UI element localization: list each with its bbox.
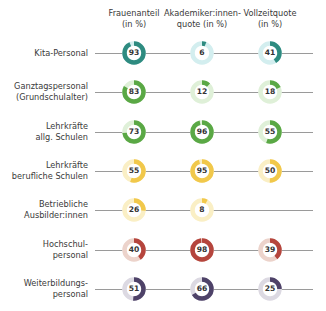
donut-value: 51	[122, 277, 146, 301]
donut-value: 41	[258, 41, 282, 65]
row-label-line: Betriebliche	[0, 199, 88, 210]
donut-ring: 51	[122, 277, 146, 301]
donut-value: 83	[122, 80, 146, 104]
donut-ring: 95	[190, 159, 214, 183]
chart-row: Hochschul-personal409839	[0, 235, 326, 265]
chart-row: BetrieblicheAusbilder:innen268	[0, 195, 326, 225]
donut-value: 6	[190, 41, 214, 65]
donut-value: 55	[122, 159, 146, 183]
row-label-line: (Grundschulalter)	[0, 92, 88, 103]
row-label: Lehrkräfteallg. Schulen	[0, 121, 88, 143]
row-label-line: personal	[0, 250, 88, 261]
donut-value: 93	[122, 41, 146, 65]
row-label: Lehrkräfteberufliche Schulen	[0, 160, 88, 182]
row-label: Weiterbildungs-personal	[0, 278, 88, 300]
donut-value: 73	[122, 120, 146, 144]
donut-value: 96	[190, 120, 214, 144]
column-header-akademikerquote: Akademiker:innen- quote (in %)	[164, 8, 240, 30]
header-line: quote (in %)	[164, 19, 240, 30]
donut-value: 12	[190, 80, 214, 104]
row-label: Hochschul-personal	[0, 239, 88, 261]
donut-value: 50	[258, 159, 282, 183]
row-label-line: berufliche Schulen	[0, 171, 88, 182]
donut-value: 40	[122, 238, 146, 262]
donut-ring: 50	[258, 159, 282, 183]
donut-ring: 66	[190, 277, 214, 301]
chart-row: Weiterbildungs-personal516625	[0, 274, 326, 304]
row-label-line: Hochschul-	[0, 239, 88, 250]
row-label-line: Ausbilder:innen	[0, 210, 88, 221]
chart-row: Ganztagspersonal(Grundschulalter)831218	[0, 77, 326, 107]
header-line: Vollzeitquote	[232, 8, 308, 19]
row-label-line: Weiterbildungs-	[0, 278, 88, 289]
donut-value: 8	[190, 198, 214, 222]
row-label-line: Ganztagspersonal	[0, 81, 88, 92]
donut-ring: 73	[122, 120, 146, 144]
row-label: Ganztagspersonal(Grundschulalter)	[0, 81, 88, 103]
column-header-frauenanteil: Frauenanteil (in %)	[96, 8, 172, 30]
donut-ring: 83	[122, 80, 146, 104]
donut-value: 26	[122, 198, 146, 222]
donut-ring: 39	[258, 238, 282, 262]
donut-ring: 93	[122, 41, 146, 65]
donut-ring: 96	[190, 120, 214, 144]
donut-value: 98	[190, 238, 214, 262]
header-line: Akademiker:innen-	[164, 8, 240, 19]
donut-value: 18	[258, 80, 282, 104]
donut-ring: 18	[258, 80, 282, 104]
row-label-line: Lehrkräfte	[0, 160, 88, 171]
column-header-vollzeitquote: Vollzeitquote (in %)	[232, 8, 308, 30]
donut-ring: 26	[122, 198, 146, 222]
donut-value: 25	[258, 277, 282, 301]
donut-value: 39	[258, 238, 282, 262]
header-line: Frauenanteil	[96, 8, 172, 19]
chart-row: Lehrkräfteallg. Schulen739655	[0, 117, 326, 147]
header-line: (in %)	[232, 19, 308, 30]
row-label-line: Kita-Personal	[0, 48, 88, 59]
row-label: Kita-Personal	[0, 48, 88, 59]
chart-row: Lehrkräfteberufliche Schulen559550	[0, 156, 326, 186]
donut-ring: 55	[258, 120, 282, 144]
donut-ring: 40	[122, 238, 146, 262]
chart-row: Kita-Personal93641	[0, 38, 326, 68]
donut-ring: 8	[190, 198, 214, 222]
donut-ring: 12	[190, 80, 214, 104]
donut-ring: 55	[122, 159, 146, 183]
donut-ring: 25	[258, 277, 282, 301]
header-line: (in %)	[96, 19, 172, 30]
donut-ring: 98	[190, 238, 214, 262]
donut-value: 55	[258, 120, 282, 144]
donut-value: 66	[190, 277, 214, 301]
donut-ring: 6	[190, 41, 214, 65]
row-label-line: allg. Schulen	[0, 132, 88, 143]
row-label: BetrieblicheAusbilder:innen	[0, 199, 88, 221]
donut-ring: 41	[258, 41, 282, 65]
donut-value: 95	[190, 159, 214, 183]
row-label-line: personal	[0, 289, 88, 300]
row-label-line: Lehrkräfte	[0, 121, 88, 132]
